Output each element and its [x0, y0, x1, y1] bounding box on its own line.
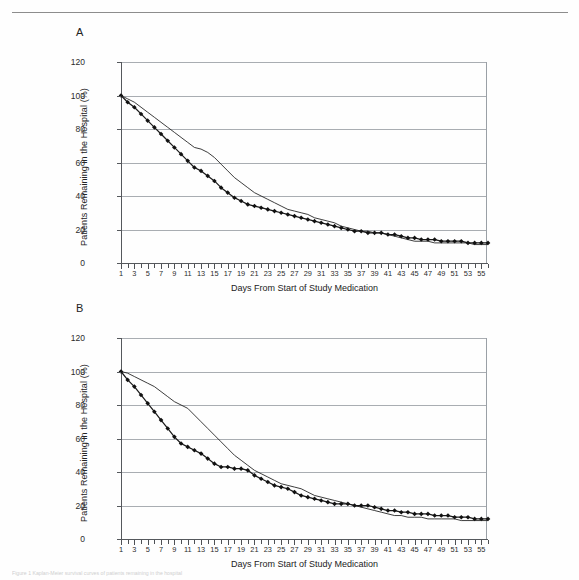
x-tick-mark	[274, 264, 275, 268]
panel-a-label: A	[76, 26, 84, 38]
data-point-marker	[399, 510, 404, 515]
page-top-rule	[12, 12, 568, 13]
x-tick-mark	[261, 264, 262, 268]
data-point-marker	[299, 493, 304, 498]
data-point-marker	[392, 508, 397, 513]
data-point-marker	[419, 512, 424, 517]
data-point-marker	[286, 486, 291, 491]
x-tick-mark	[381, 540, 382, 544]
data-point-marker	[279, 210, 284, 215]
x-tick-mark	[141, 540, 142, 544]
y-tick-mark	[117, 405, 121, 406]
x-tick-mark	[248, 540, 249, 544]
data-point-marker	[266, 207, 271, 212]
x-tick-mark	[128, 264, 129, 268]
data-point-marker	[412, 236, 417, 241]
data-point-marker	[239, 466, 244, 471]
x-tick-mark	[381, 264, 382, 268]
x-tick-mark	[221, 264, 222, 268]
data-point-marker	[225, 465, 230, 470]
y-tick-label: 20	[45, 501, 85, 511]
y-tick-mark	[117, 163, 121, 164]
y-tick-mark	[117, 62, 121, 63]
x-tick-mark	[194, 540, 195, 544]
y-tick-label: 40	[45, 467, 85, 477]
y-tick-mark	[117, 196, 121, 197]
y-tick-label: 120	[45, 57, 85, 67]
x-tick-label: 55	[473, 545, 489, 554]
x-tick-mark	[128, 540, 129, 544]
x-tick-mark	[435, 264, 436, 268]
y-tick-mark	[117, 506, 121, 507]
data-point-marker	[306, 217, 311, 222]
data-point-marker	[219, 465, 224, 470]
panel-b-x-axis-title: Days From Start of Study Medication	[121, 559, 488, 569]
panel-b-series	[121, 338, 488, 540]
x-tick-mark	[328, 264, 329, 268]
data-point-marker	[299, 215, 304, 220]
series-line	[121, 96, 488, 245]
series-line	[121, 372, 488, 521]
data-point-marker	[239, 199, 244, 204]
x-tick-mark	[168, 540, 169, 544]
x-tick-mark	[234, 264, 235, 268]
x-tick-mark	[208, 264, 209, 268]
data-point-marker	[266, 480, 271, 485]
x-tick-mark	[355, 264, 356, 268]
x-tick-mark	[421, 540, 422, 544]
data-point-marker	[412, 512, 417, 517]
y-tick-mark	[117, 129, 121, 130]
data-point-marker	[446, 513, 451, 518]
y-tick-mark	[117, 96, 121, 97]
x-tick-mark	[221, 540, 222, 544]
x-tick-mark	[234, 540, 235, 544]
x-tick-mark	[181, 264, 182, 268]
y-tick-mark	[117, 439, 121, 440]
y-tick-label: 60	[45, 158, 85, 168]
x-tick-mark	[181, 540, 182, 544]
x-tick-mark	[408, 264, 409, 268]
data-point-marker	[292, 490, 297, 495]
data-point-marker	[319, 498, 324, 503]
y-tick-label: 100	[45, 367, 85, 377]
y-tick-label: 60	[45, 434, 85, 444]
x-tick-mark	[341, 540, 342, 544]
x-tick-mark	[301, 540, 302, 544]
data-point-marker	[232, 466, 237, 471]
x-tick-mark	[288, 264, 289, 268]
y-tick-mark	[117, 372, 121, 373]
x-tick-mark	[315, 540, 316, 544]
x-tick-mark	[315, 264, 316, 268]
y-tick-label: 120	[45, 333, 85, 343]
data-point-marker	[459, 515, 464, 520]
data-point-marker	[252, 204, 257, 209]
y-tick-mark	[117, 539, 121, 540]
data-point-marker	[426, 512, 431, 517]
x-tick-mark	[475, 264, 476, 268]
data-point-marker	[332, 224, 337, 229]
y-tick-mark	[117, 263, 121, 264]
data-point-marker	[319, 221, 324, 226]
figure-page: A Patients Remaining in the Hospital (%)…	[0, 0, 579, 580]
x-tick-mark	[488, 264, 489, 268]
x-tick-mark	[154, 264, 155, 268]
x-tick-mark	[301, 264, 302, 268]
x-tick-mark	[448, 540, 449, 544]
data-point-marker	[372, 505, 377, 510]
y-tick-label: 80	[45, 124, 85, 134]
data-point-marker	[432, 237, 437, 242]
y-tick-label: 20	[45, 225, 85, 235]
data-point-marker	[366, 503, 371, 508]
y-tick-label: 0	[45, 534, 85, 544]
data-point-marker	[332, 502, 337, 507]
x-tick-label: 55	[473, 269, 489, 278]
panel-b: B Patients Remaining in the Hospital (%)…	[0, 292, 579, 574]
data-point-marker	[406, 510, 411, 515]
x-tick-mark	[368, 540, 369, 544]
x-tick-mark	[395, 264, 396, 268]
data-point-marker	[312, 219, 317, 224]
data-point-marker	[326, 222, 331, 227]
data-point-marker	[185, 445, 190, 450]
panel-b-label: B	[76, 302, 84, 314]
data-point-marker	[286, 212, 291, 217]
